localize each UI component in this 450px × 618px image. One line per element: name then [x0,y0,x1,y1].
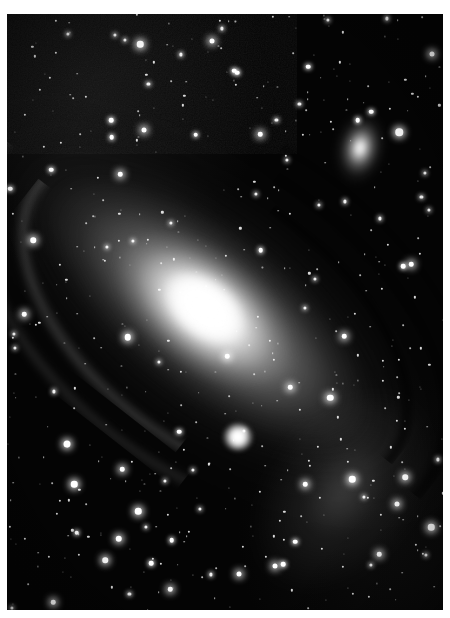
night-sky-background [7,14,443,610]
screenshot-root: Andromeda Galaxy (M31) [0,0,450,618]
photographic-plate [7,14,443,610]
